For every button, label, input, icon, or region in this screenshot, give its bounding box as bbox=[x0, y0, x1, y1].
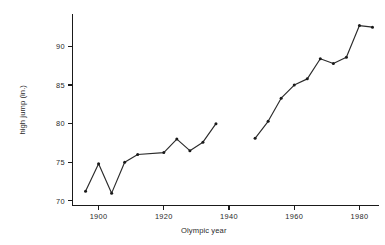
x-axis-title: Olympic year bbox=[181, 226, 227, 235]
data-point-marker bbox=[97, 162, 100, 165]
data-point-marker bbox=[358, 24, 361, 27]
data-point-marker bbox=[280, 97, 283, 100]
data-point-marker bbox=[254, 137, 257, 140]
x-tick-label: 1920 bbox=[155, 212, 173, 221]
x-axis-ticks: 19001920194019601980 bbox=[90, 206, 369, 222]
data-point-marker bbox=[293, 84, 296, 87]
x-tick-label: 1980 bbox=[351, 212, 369, 221]
line-chart-canvas: 7075808590 19001920194019601980 high jum… bbox=[0, 0, 385, 245]
y-tick-label: 80 bbox=[56, 119, 65, 128]
data-point-marker bbox=[175, 138, 178, 141]
data-point-marker bbox=[188, 149, 191, 152]
data-point-marker bbox=[201, 141, 204, 144]
x-tick-label: 1900 bbox=[90, 212, 108, 221]
data-point-marker bbox=[214, 122, 217, 125]
y-axis-ticks: 7075808590 bbox=[56, 42, 72, 205]
data-point-marker bbox=[136, 153, 139, 156]
y-tick-label: 75 bbox=[56, 158, 65, 167]
x-tick-label: 1940 bbox=[220, 212, 238, 221]
data-point-marker bbox=[306, 77, 309, 80]
y-tick-label: 85 bbox=[56, 81, 65, 90]
series-line-segment bbox=[86, 124, 216, 193]
data-point-marker bbox=[345, 56, 348, 59]
y-tick-label: 90 bbox=[56, 42, 65, 51]
y-axis-title: high jump (in.) bbox=[18, 85, 27, 135]
data-point-marker bbox=[319, 57, 322, 60]
data-point-marker bbox=[371, 26, 374, 29]
data-point-marker bbox=[123, 161, 126, 164]
data-point-marker bbox=[332, 62, 335, 65]
data-point-marker bbox=[110, 192, 113, 195]
data-point-marker bbox=[267, 120, 270, 123]
series-line-segment bbox=[255, 26, 372, 139]
data-series-group bbox=[84, 24, 374, 195]
y-tick-label: 70 bbox=[56, 197, 65, 206]
data-point-marker bbox=[84, 190, 87, 193]
data-point-marker bbox=[162, 151, 165, 154]
chart-figure: 7075808590 19001920194019601980 high jum… bbox=[0, 0, 385, 245]
x-tick-label: 1960 bbox=[285, 212, 303, 221]
